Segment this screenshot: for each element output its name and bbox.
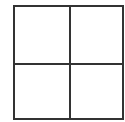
grid-cell-top-right <box>71 7 122 63</box>
two-by-two-grid <box>13 5 124 120</box>
grid-cell-bottom-right <box>71 65 122 118</box>
grid-cell-bottom-left <box>15 65 69 118</box>
grid-cell-top-left <box>15 7 69 63</box>
